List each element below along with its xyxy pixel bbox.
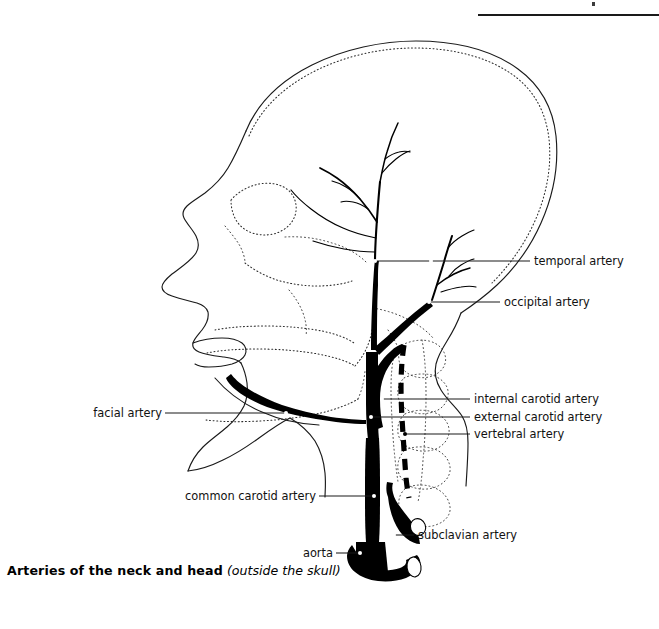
chin-jawline-outline [188,363,247,471]
mandible-angle-dotted [358,371,365,399]
zygomatic-arch-dotted [285,237,366,262]
occipital-artery-branches-group [432,230,476,300]
leader-dot-common-carotid [372,494,376,498]
top-tick-mark [592,2,595,6]
orbit-eye-socket-dotted [231,183,296,235]
label-vertebral-artery: vertebral artery [474,427,564,441]
label-internal-carotid-artery: internal carotid artery [474,392,599,406]
label-external-carotid-artery: external carotid artery [474,410,602,424]
leader-dot-aorta [358,551,362,555]
vertebral-artery-group [401,345,409,498]
nasal-aperture-dotted [225,226,245,263]
label-common-carotid-artery: common carotid artery [185,489,316,503]
temporal-anterior-low-branch [313,241,375,252]
neck-front-lower-outline [290,418,325,497]
figure-root: temporal artery occipital artery interna… [0,0,659,629]
leader-dot-external-carotid [369,415,373,419]
leader-dot-occipital-trunk [427,300,431,304]
vertebra-c2-dotted [398,374,448,414]
leader-dot-subclavian [392,533,396,537]
vertebral-artery-dashed-path [401,345,409,498]
maxilla-upper-jaw-dotted [245,263,352,286]
occipital-posterior-subbranch-b [441,286,476,292]
label-subclavian-artery: subclavian artery [418,528,517,542]
temporal-artery-branches-group [291,123,410,262]
figure-caption: Arteries of the neck and head (outside t… [7,563,341,578]
label-facial-artery: facial artery [93,406,162,420]
superficial-temporal-trunk [371,261,379,350]
label-occipital-artery: occipital artery [504,295,590,309]
ascending-aorta-stub [356,542,388,572]
label-text-group: temporal artery occipital artery interna… [93,254,624,560]
common-carotid-artery-trunk [365,438,380,542]
leader-dot-temporal-branch [429,259,433,263]
neck-front-outline [188,418,290,471]
occipital-ascending-branch [432,236,452,300]
forehead-nose-lips-chin-outline [162,131,246,363]
vertebral-body-column-dotted [418,340,426,502]
label-aorta: aorta [303,546,333,560]
facial-bone-detail-dotted [289,290,306,336]
temporal-frontal-branch [320,168,377,222]
cranial-vault-dotted-outline [249,48,550,283]
top-rule-divider [478,14,659,16]
temporal-anterior-long-branch [291,190,376,238]
leader-dot-facial [284,411,288,415]
leader-dot-temporal-trunk [373,259,377,263]
leader-dot-vertebral [403,432,407,436]
cranium-skin-outline [246,41,557,313]
label-temporal-artery: temporal artery [534,254,624,268]
anatomy-illustration: temporal artery occipital artery interna… [0,0,659,629]
temporal-frontal-subbranch-a [332,181,360,199]
leader-dot-internal-carotid [380,397,384,401]
caption-note: (outside the skull) [227,563,341,578]
caption-title: Arteries of the neck and head [7,563,223,578]
